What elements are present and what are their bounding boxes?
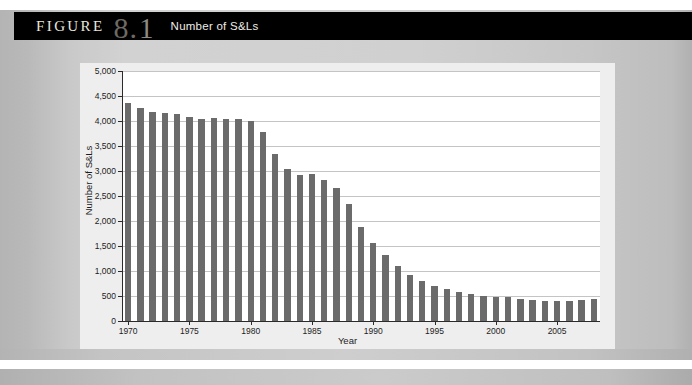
bar: [333, 188, 339, 321]
bar: [554, 301, 560, 321]
bar: [321, 180, 327, 321]
y-axis-tick-label: 1,500: [82, 242, 116, 250]
bar: [517, 299, 523, 322]
bar: [162, 113, 168, 322]
figure-number-dot: .: [130, 14, 138, 42]
x-axis-tick: [373, 321, 374, 325]
bar: [137, 108, 143, 322]
bar: [578, 300, 584, 321]
bar: [309, 174, 315, 322]
bar: [395, 266, 401, 322]
bar: [198, 119, 204, 322]
bar: [542, 301, 548, 322]
x-axis-tick: [496, 321, 497, 325]
x-axis-line: [122, 321, 600, 322]
bar: [272, 154, 278, 322]
x-axis-tick: [435, 321, 436, 325]
bar: [346, 204, 352, 321]
bar: [370, 243, 376, 321]
bar: [248, 121, 254, 321]
y-axis-tick-label: 500: [82, 292, 116, 300]
x-axis-tick: [251, 321, 252, 325]
bar: [480, 296, 486, 322]
bar: [149, 112, 155, 321]
x-axis-tick: [557, 321, 558, 325]
figure-label: FIGURE: [36, 18, 105, 35]
y-axis-tick-label: 4,500: [82, 92, 116, 100]
bar: [284, 169, 290, 322]
y-axis-tick-label: 5,000: [82, 67, 116, 75]
bar: [444, 289, 450, 321]
bar: [223, 119, 229, 322]
bar: [125, 103, 131, 321]
x-axis-tick: [128, 321, 129, 325]
y-axis-title: Number of S&Ls: [83, 121, 94, 241]
bar: [174, 114, 180, 321]
footer-bottom-strip: [0, 369, 692, 385]
footer-gap: [0, 360, 692, 369]
bar: [211, 118, 217, 321]
chart-panel: 05001,0001,5002,0002,5003,0003,5004,0004…: [80, 63, 615, 349]
bar: [235, 119, 241, 321]
x-axis-title: Year: [80, 335, 615, 346]
bar: [260, 132, 266, 321]
x-axis-tick: [189, 321, 190, 325]
bar: [566, 301, 572, 322]
bar-series: [122, 71, 600, 321]
bar: [591, 299, 597, 321]
footer-strip: [0, 349, 692, 360]
bar: [407, 275, 413, 321]
figure-page: FIGURE 8 . 1 Number of S&Ls 05001,0001,5…: [0, 0, 692, 385]
bar: [297, 175, 303, 321]
bar: [529, 300, 535, 322]
bar: [468, 294, 474, 322]
figure-subnumber: 1: [139, 14, 154, 42]
figure-number: 8: [114, 14, 129, 42]
figure-header-bar: FIGURE 8 . 1 Number of S&Ls: [14, 12, 692, 40]
x-axis-tick: [312, 321, 313, 325]
page-top-margin: [0, 0, 692, 10]
bar: [358, 227, 364, 322]
y-axis-line: [122, 71, 123, 321]
bar: [431, 286, 437, 322]
figure-title: Number of S&Ls: [171, 20, 259, 32]
bar: [493, 297, 499, 322]
bar: [382, 255, 388, 322]
bar: [186, 117, 192, 321]
bar: [456, 292, 462, 322]
y-axis-tick-label: 0: [82, 317, 116, 325]
y-axis-tick-label: 1,000: [82, 267, 116, 275]
bar: [419, 281, 425, 322]
bar: [505, 297, 511, 321]
